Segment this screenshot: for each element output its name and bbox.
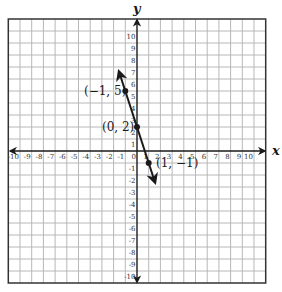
axes (10, 20, 264, 282)
y-tick-label: 8 (131, 57, 135, 65)
y-tick-label: -10 (124, 273, 135, 281)
x-tick-label: 7 (213, 153, 217, 161)
x-tick-label: -7 (47, 153, 54, 161)
y-tick-label: -4 (129, 201, 136, 209)
point-label-0-2: (0, 2) (102, 120, 134, 134)
y-tick-label: -6 (129, 225, 136, 233)
coordinate-plane: -10-9-8-7-6-5-4-3-2-1012345678910-10-9-8… (0, 0, 282, 292)
x-tick-label: -2 (106, 153, 113, 161)
y-tick-label: 7 (131, 69, 135, 77)
x-tick-label: 6 (202, 153, 207, 161)
x-tick-label: 0 (132, 153, 136, 161)
y-tick-label: 1 (131, 141, 135, 149)
x-tick-label: 8 (225, 153, 229, 161)
y-tick-label: -3 (129, 189, 136, 197)
y-axis-label: y (132, 1, 142, 16)
y-tick-label: -7 (129, 237, 136, 245)
point-label-1-neg1: (1, −1) (156, 156, 198, 170)
y-tick-label: -5 (129, 213, 136, 221)
data-point (146, 160, 152, 166)
x-axis-label: x (271, 143, 280, 158)
x-tick-label: -9 (24, 153, 31, 161)
x-tick-label: -3 (94, 153, 101, 161)
y-tick-label: -9 (129, 261, 136, 269)
x-tick-label: -4 (82, 153, 89, 161)
x-tick-label: 9 (237, 153, 241, 161)
x-tick-label: -5 (71, 153, 78, 161)
y-tick-label: 5 (131, 93, 135, 101)
point-label-neg1-5: (−1, 5) (84, 84, 126, 98)
y-tick-label: 9 (131, 45, 135, 53)
x-tick-label: -10 (8, 153, 19, 161)
y-tick-label: -1 (129, 165, 136, 173)
y-tick-label: -8 (129, 249, 136, 257)
x-tick-label: -6 (59, 153, 66, 161)
tick-labels: -10-9-8-7-6-5-4-3-2-1012345678910-10-9-8… (8, 33, 253, 281)
x-tick-label: 10 (244, 153, 253, 161)
y-tick-label: 6 (131, 81, 136, 89)
data-point (134, 124, 140, 130)
y-tick-label: -2 (129, 177, 136, 185)
x-tick-label: -1 (117, 153, 124, 161)
y-tick-label: 10 (127, 33, 136, 41)
x-tick-label: -8 (36, 153, 43, 161)
